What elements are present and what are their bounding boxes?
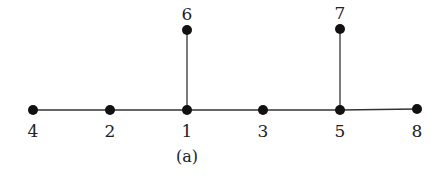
- edges: [33, 29, 417, 110]
- node-label-1: 1: [182, 121, 193, 141]
- node-5: [335, 105, 345, 115]
- node-label-5: 5: [335, 121, 346, 141]
- node-8: [412, 104, 422, 114]
- figure-caption: (a): [176, 147, 198, 166]
- node-label-6: 6: [182, 4, 193, 24]
- node-label-7: 7: [335, 3, 346, 23]
- edge-5-8: [340, 109, 417, 110]
- node-label-4: 4: [28, 121, 39, 141]
- node-label-3: 3: [258, 121, 269, 141]
- node-1: [182, 105, 192, 115]
- node-6: [182, 25, 192, 35]
- graph-diagram: 4 2 1 3 5 8 6 7 (a): [0, 0, 437, 176]
- node-label-2: 2: [105, 121, 116, 141]
- node-7: [335, 24, 345, 34]
- node-4: [28, 105, 38, 115]
- node-3: [258, 105, 268, 115]
- node-label-8: 8: [412, 121, 423, 141]
- labels: 4 2 1 3 5 8 6 7: [28, 3, 423, 141]
- node-2: [105, 105, 115, 115]
- nodes: [28, 24, 422, 115]
